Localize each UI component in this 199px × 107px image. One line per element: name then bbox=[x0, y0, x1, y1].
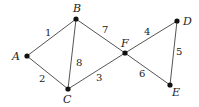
node-label: C bbox=[63, 93, 72, 106]
edges: 12873456 bbox=[27, 19, 182, 89]
nodes: ABCFDE bbox=[11, 2, 192, 106]
edge-weight-label: 5 bbox=[176, 46, 182, 57]
edge-weight-label: 3 bbox=[96, 72, 102, 83]
edge-weight-label: 4 bbox=[144, 26, 150, 37]
node-label: F bbox=[120, 37, 129, 50]
node-b bbox=[73, 16, 78, 21]
edge-weight-label: 1 bbox=[45, 27, 51, 38]
edge-weight-label: 7 bbox=[102, 24, 108, 35]
edge-weight-label: 2 bbox=[39, 73, 45, 84]
node-label: D bbox=[182, 15, 192, 28]
edge-b-f bbox=[76, 19, 125, 53]
node-label: A bbox=[11, 50, 20, 63]
node-a bbox=[24, 53, 29, 58]
node-label: B bbox=[72, 2, 81, 15]
node-f bbox=[122, 50, 127, 55]
edge-weight-label: 6 bbox=[139, 68, 145, 79]
weighted-graph: 12873456 ABCFDE bbox=[0, 0, 199, 107]
node-c bbox=[65, 86, 70, 91]
node-d bbox=[174, 18, 179, 23]
edge-weight-label: 8 bbox=[76, 57, 82, 68]
edge-f-d bbox=[125, 21, 177, 53]
node-label: E bbox=[171, 86, 180, 99]
edge-b-c bbox=[68, 19, 76, 89]
edge-a-b bbox=[27, 19, 76, 56]
edge-f-e bbox=[125, 53, 170, 85]
edge-a-c bbox=[27, 56, 68, 89]
